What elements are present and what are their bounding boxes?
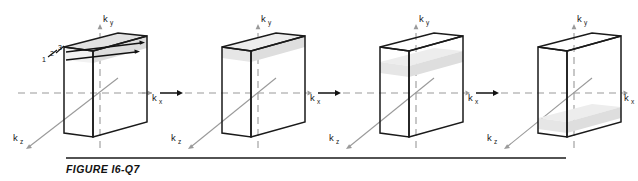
panel-4-ky-arrowhead [572,24,577,29]
panel-1-ky-label: k [103,13,108,24]
panel-2-kz-axis [192,78,276,146]
panel-4-ky-sub: y [584,19,588,27]
figure-caption: FIGURE I6-Q7 [66,163,140,175]
panel-2-ky-label: k [261,13,266,24]
panel-1-kz-sub: z [20,138,23,145]
panel-3-ky-label: k [419,13,424,24]
panel-1-level-number-3: 3 [58,44,62,51]
panel-3-kz-label: k [329,132,334,143]
panel-1: 1 2 3 k y k x k z [13,13,163,149]
panel-3-kz-sub: z [336,138,339,145]
arrow-2-to-3-head [335,90,341,96]
panel-1-level-number-2: 2 [50,50,54,57]
panel-3-ky-arrowhead [414,24,419,29]
panel-4-kx-label: k [624,92,629,103]
panel-4-kz-label: k [487,132,492,143]
panel-1-kz-axis [30,78,118,146]
panel-1-kx-sub: x [159,98,163,105]
panel-1-kz-label: k [13,132,18,143]
panel-2-kx-label: k [310,92,315,103]
arrow-2-to-3 [318,90,341,96]
panel-3-kx-label: k [468,92,473,103]
panel-2-ky-sub: y [268,19,272,27]
panel-2: k y k x k z [171,13,321,149]
panel-4: k y k x k z [487,13,635,149]
panel-1-ky-arrowhead [98,24,103,29]
panel-1-ky-sub: y [110,19,114,27]
arrow-1-to-2-head [177,90,183,96]
panel-1-kx-label: k [152,92,157,103]
panel-3: k y k x k z [329,13,479,149]
panel-2-ky-arrowhead [256,24,261,29]
panel-4-kz-sub: z [494,138,497,145]
arrow-1-to-2 [160,90,183,96]
panel-2-kx-sub: x [317,98,321,105]
arrow-3-to-4-head [493,90,499,96]
panel-3-ky-sub: y [426,19,430,27]
panel-4-ky-label: k [577,13,582,24]
panel-4-kx-sub: x [631,98,635,105]
panel-2-kz-label: k [171,132,176,143]
arrow-3-to-4 [476,90,499,96]
panel-1-level-number-1: 1 [42,56,46,63]
panel-3-kz-axis [350,78,434,146]
panel-3-kx-sub: x [475,98,479,105]
k-space-cube-sequence: 1 2 3 k y k x k z [0,0,638,181]
panel-2-kz-sub: z [178,138,181,145]
figure-container: 1 2 3 k y k x k z [0,0,638,181]
